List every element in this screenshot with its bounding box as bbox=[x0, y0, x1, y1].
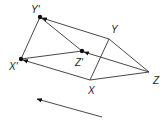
direction-arrow-icon bbox=[37, 99, 102, 117]
segment-y1z1 bbox=[40, 17, 82, 51]
label-y1: Y' bbox=[31, 4, 41, 15]
label-x: X bbox=[87, 85, 95, 96]
triangle-x1y1z1 bbox=[21, 17, 82, 59]
translation-diagram: Y' X' Z' Y X Z bbox=[0, 0, 164, 121]
vector-y-to-y1 bbox=[42, 18, 109, 39]
vector-z-to-z1 bbox=[84, 52, 149, 72]
point-z1 bbox=[80, 49, 84, 53]
label-y: Y bbox=[111, 24, 119, 35]
label-z1: Z' bbox=[74, 57, 84, 68]
triangle-xyz bbox=[90, 39, 149, 80]
segment-x1z1 bbox=[21, 51, 82, 59]
point-y1 bbox=[38, 15, 42, 19]
label-z: Z bbox=[152, 75, 160, 86]
segment-yz bbox=[109, 39, 149, 72]
label-x1: X' bbox=[8, 61, 19, 72]
segment-xz bbox=[90, 72, 149, 80]
point-x1 bbox=[19, 57, 23, 61]
segment-x1y1 bbox=[21, 17, 40, 59]
segment-xy bbox=[90, 39, 109, 80]
translation-vectors bbox=[23, 18, 149, 80]
